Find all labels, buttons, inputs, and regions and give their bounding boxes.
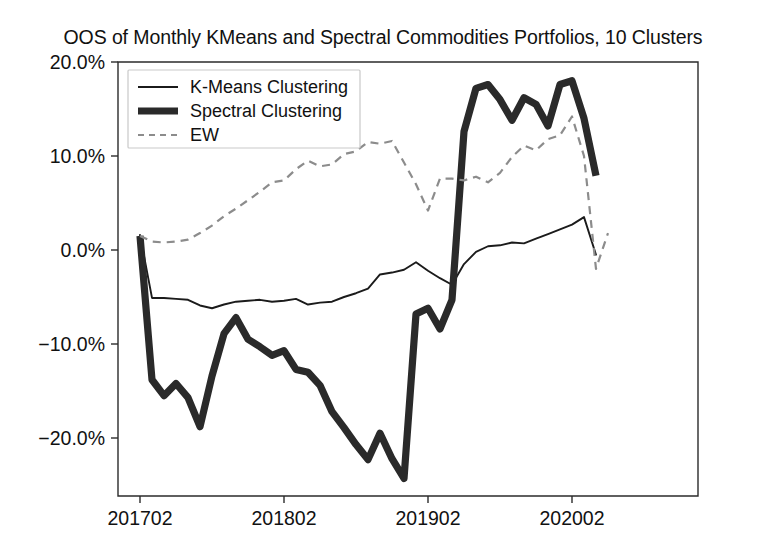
line-chart-plot: 20.0%10.0%0.0%−10.0%−20.0% 2017022018022…: [0, 0, 766, 556]
legend-label: EW: [190, 125, 219, 145]
y-tick-label: 0.0%: [61, 239, 105, 261]
y-axis-ticks: 20.0%10.0%0.0%−10.0%−20.0%: [38, 51, 118, 449]
x-tick-label: 202002: [539, 507, 604, 529]
chart-legend: K-Means ClusteringSpectral ClusteringEW: [128, 70, 360, 148]
series-line-k-means-clustering: [140, 217, 596, 308]
x-tick-label: 201802: [251, 507, 316, 529]
y-tick-label: 20.0%: [50, 51, 105, 73]
chart-figure: OOS of Monthly KMeans and Spectral Commo…: [0, 0, 766, 556]
legend-label: Spectral Clustering: [190, 101, 342, 121]
y-tick-label: −10.0%: [38, 333, 105, 355]
legend-label: K-Means Clustering: [190, 77, 348, 97]
x-axis-ticks: 201702201802201902202002: [107, 496, 604, 529]
x-tick-label: 201902: [395, 507, 460, 529]
x-tick-label: 201702: [107, 507, 172, 529]
y-tick-label: 10.0%: [50, 145, 105, 167]
y-tick-label: −20.0%: [38, 427, 105, 449]
